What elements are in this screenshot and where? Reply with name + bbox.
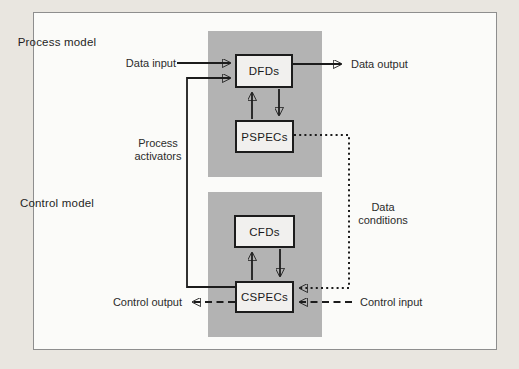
data-output-label: Data output (351, 58, 431, 71)
data-input-label: Data input (108, 57, 176, 70)
dfds-box: DFDs (235, 54, 293, 88)
control-input-label: Control input (360, 296, 440, 309)
process-model-title: Process model (0, 36, 114, 48)
control-model-title: Control model (0, 197, 114, 209)
cfds-box: CFDs (234, 215, 295, 248)
cspecs-box: CSPECs (235, 281, 294, 313)
data-conditions-label: Data conditions (347, 201, 419, 226)
control-output-label: Control output (112, 296, 182, 309)
process-model-panel (208, 31, 322, 177)
process-activators-label: Process activators (121, 137, 195, 162)
pspecs-box: PSPECs (235, 120, 294, 153)
diagram-stage: Process model Control model DFDs PSPECs … (0, 0, 519, 369)
control-model-panel (208, 192, 322, 337)
